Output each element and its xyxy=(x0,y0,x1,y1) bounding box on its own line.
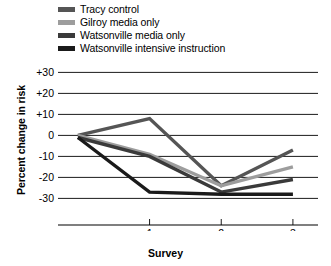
y-tick-label: +10 xyxy=(36,108,54,120)
chart-legend: Tracy control Gilroy media only Watsonvi… xyxy=(58,3,323,55)
legend-swatch-watsonville-media-only xyxy=(58,33,75,38)
legend-swatch-watsonville-intensive-instruction xyxy=(58,46,75,51)
y-gridlines xyxy=(58,72,318,198)
chart-figure: Tracy control Gilroy media only Watsonvi… xyxy=(0,0,331,266)
legend-label-watsonville-intensive-instruction: Watsonville intensive instruction xyxy=(80,43,225,54)
y-tick-label: +30 xyxy=(36,66,54,78)
x-tick-label: 1 xyxy=(147,227,153,231)
y-tick-label: -20 xyxy=(39,171,54,183)
legend-swatch-gilroy-media-only xyxy=(58,20,75,25)
y-tick-label: -30 xyxy=(39,192,54,204)
y-tick-label: -10 xyxy=(39,150,54,162)
legend-item: Tracy control xyxy=(58,3,323,15)
x-tick-labels: 123 xyxy=(147,227,296,231)
legend-label-watsonville-media-only: Watsonville media only xyxy=(80,30,185,41)
x-tick-label: 3 xyxy=(290,227,296,231)
y-axis-title: Percent change in risk xyxy=(15,75,27,205)
legend-item: Watsonville intensive instruction xyxy=(58,42,323,54)
legend-item: Watsonville media only xyxy=(58,29,323,41)
legend-item: Gilroy media only xyxy=(58,16,323,28)
x-tick-label: 2 xyxy=(218,227,224,231)
legend-swatch-tracy-control xyxy=(58,7,75,12)
y-tick-label: +20 xyxy=(36,87,54,99)
y-tick-labels: +30+20+100-10-20-30 xyxy=(36,66,54,204)
x-axis xyxy=(58,219,318,225)
plot-svg: +30+20+100-10-20-30 123 xyxy=(0,56,331,231)
plot-area: +30+20+100-10-20-30 123 xyxy=(0,56,331,231)
legend-label-tracy-control: Tracy control xyxy=(80,4,139,15)
legend-label-gilroy-media-only: Gilroy media only xyxy=(80,17,159,28)
x-axis-title: Survey xyxy=(0,247,331,259)
y-tick-label: 0 xyxy=(48,129,54,141)
